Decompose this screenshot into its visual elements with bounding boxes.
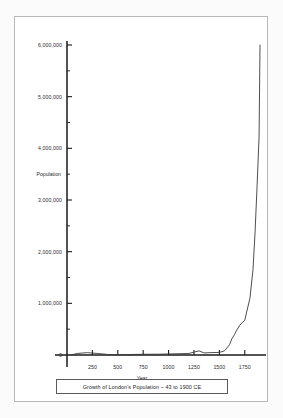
- chart-figure: 01,000,0002,000,0003,000,0004,000,0005,0…: [15, 17, 269, 372]
- document-frame: 01,000,0002,000,0003,000,0004,000,0005,0…: [14, 16, 268, 402]
- x-axis-tick-labels: 2505007501000125015001750: [15, 17, 269, 372]
- x-axis-tick-label: 1750: [230, 364, 260, 370]
- page-root: 01,000,0002,000,0003,000,0004,000,0005,0…: [0, 0, 283, 418]
- chart-caption-text: Growth of London's Population – 43 to 19…: [83, 384, 202, 390]
- chart-caption-box: Growth of London's Population – 43 to 19…: [56, 379, 228, 394]
